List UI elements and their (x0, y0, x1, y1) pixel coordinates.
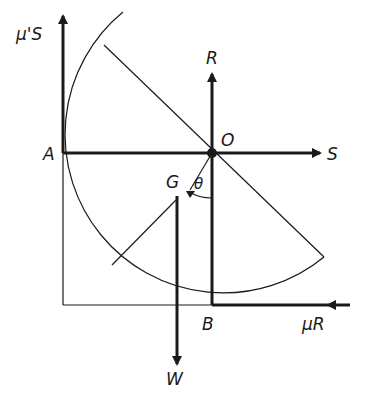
label-a: A (42, 144, 55, 164)
label-w: W (166, 369, 184, 389)
theta-arc (191, 193, 211, 198)
label-mu-r: μR (301, 314, 325, 334)
label-b: B (202, 314, 214, 334)
label-r: R (206, 48, 218, 68)
force-diagram: μ'S A R O S G θ B μR W (0, 0, 371, 414)
label-theta: θ (194, 175, 203, 193)
label-s: S (327, 144, 338, 164)
g-radius-line (112, 200, 176, 265)
label-mu-s: μ'S (15, 24, 42, 44)
label-g: G (166, 172, 179, 192)
point-o (207, 148, 217, 158)
label-o: O (221, 130, 234, 150)
mu-r-arrowhead-icon (326, 300, 336, 310)
